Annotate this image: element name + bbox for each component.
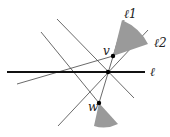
line-b <box>41 32 99 103</box>
point-center <box>106 70 110 74</box>
point-v <box>111 54 115 58</box>
cone-v <box>113 20 148 56</box>
line-through-v <box>17 56 113 84</box>
label-l2: ℓ2 <box>154 36 167 50</box>
label-w: w <box>88 100 99 114</box>
label-l1: ℓ1 <box>124 7 137 21</box>
label-l: ℓ <box>150 65 155 79</box>
diagram: ℓ1 ℓ2 ℓ v w <box>0 0 170 137</box>
label-v: v <box>103 44 110 58</box>
